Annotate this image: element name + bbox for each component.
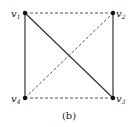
graph-diagram: v1 v2 v3 v4 (b) — [0, 0, 137, 127]
vertex-v4 — [23, 96, 27, 100]
label-v3: v3 — [116, 93, 126, 105]
vertex-v3 — [111, 96, 115, 100]
vertex-v1 — [23, 11, 27, 15]
label-v2: v2 — [116, 8, 126, 20]
label-v4: v4 — [11, 93, 21, 105]
figure-caption: (b) — [62, 110, 76, 121]
vertex-v2 — [111, 11, 115, 15]
label-v1: v1 — [11, 8, 20, 20]
